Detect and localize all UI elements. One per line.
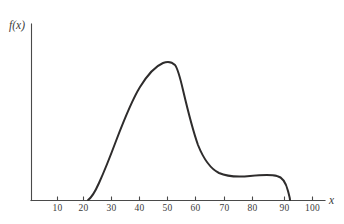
x-axis-tick-labels: 10 20 30 40 50 60 70 80 90 100 xyxy=(53,203,320,213)
x-axis-ticks xyxy=(58,197,313,201)
tick-label-50: 50 xyxy=(163,203,173,213)
tick-label-80: 80 xyxy=(248,203,258,213)
tick-label-100: 100 xyxy=(305,203,320,213)
y-axis-label: f(x) xyxy=(9,19,25,32)
tick-label-40: 40 xyxy=(135,203,145,213)
tick-label-90: 90 xyxy=(280,203,290,213)
x-axis-label: x xyxy=(328,194,335,206)
tick-label-20: 20 xyxy=(79,203,89,213)
chart-figure: 10 20 30 40 50 60 70 80 90 100 f(x) x xyxy=(0,0,344,224)
tick-label-70: 70 xyxy=(220,203,230,213)
tick-label-60: 60 xyxy=(191,203,201,213)
density-curve xyxy=(88,62,290,200)
tick-label-30: 30 xyxy=(107,203,117,213)
plot-canvas: 10 20 30 40 50 60 70 80 90 100 f(x) x xyxy=(0,0,344,224)
tick-label-10: 10 xyxy=(53,203,63,213)
